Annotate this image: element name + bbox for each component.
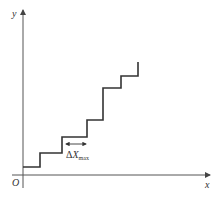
delta-x-max-label: ΔXmax	[66, 149, 89, 161]
origin-label: O	[12, 177, 19, 188]
staircase-diagram: y x O ΔXmax	[0, 0, 220, 203]
staircase-line	[23, 62, 138, 167]
x-axis-label: x	[204, 179, 210, 190]
y-axis-label: y	[11, 8, 17, 19]
